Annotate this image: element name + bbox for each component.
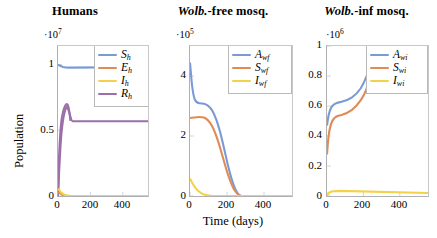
panel-title-rest: -free mosq. <box>208 4 269 18</box>
exponent-prefix: ·10 <box>326 29 340 40</box>
panel-title-italic-part: Wolb. <box>324 4 354 18</box>
legend-humans: Sh Eh Ih Rh <box>94 45 149 107</box>
xtick-humans-200: 200 <box>76 198 104 210</box>
legend-row[interactable]: Swi <box>370 61 423 74</box>
xtick-wi-200: 200 <box>348 198 376 210</box>
panel-title-wolb-free: Wolb.-free mosq. <box>150 4 296 19</box>
legend-swatch-Swi <box>370 67 389 69</box>
xtick-wf-200: 200 <box>212 198 240 210</box>
exponent-power: 5 <box>190 27 194 36</box>
y-exponent-wolb-free: ·105 <box>176 29 194 40</box>
xtick-humans-400: 400 <box>108 198 136 210</box>
panel-title-rest: Humans <box>52 4 98 18</box>
legend-label-Iwi: Iwi <box>393 75 404 87</box>
legend-label-Ih: Ih <box>121 75 129 87</box>
plot-area-wolb-inf: Awi Swi Iwi <box>326 45 429 197</box>
series-line-Iwi <box>327 191 428 196</box>
ytick-wi-1: 1 <box>294 38 322 50</box>
ytick-wf-4: 4 <box>158 68 186 80</box>
legend-row[interactable]: Ih <box>98 74 145 87</box>
legend-swatch-Swf <box>232 67 251 69</box>
legend-wolb-free: Awf Swf Iwf <box>228 45 292 94</box>
exponent-prefix: ·10 <box>176 29 190 40</box>
ytick-wi-08: 0.8 <box>294 68 322 80</box>
plot-area-humans: Sh Eh Ih Rh <box>57 45 149 197</box>
legend-swatch-Awi <box>370 54 389 56</box>
tick-marks <box>190 76 264 196</box>
legend-label-Awf: Awf <box>255 49 270 61</box>
ytick-wi-02: 0.2 <box>294 159 322 171</box>
legend-row[interactable]: Awi <box>370 48 423 61</box>
ytick-humans-05: 0.5 <box>26 123 54 135</box>
legend-label-Rh: Rh <box>121 88 132 100</box>
panel-humans: Humans ·107 <box>0 0 150 238</box>
legend-row[interactable]: Eh <box>98 61 145 74</box>
y-exponent-wolb-inf: ·106 <box>326 29 344 40</box>
legend-swatch-Ih <box>98 80 117 82</box>
xtick-wi-400: 400 <box>385 198 413 210</box>
legend-swatch-Awf <box>232 54 251 56</box>
legend-label-Swi: Swi <box>393 62 406 74</box>
legend-row[interactable]: Swf <box>232 61 287 74</box>
legend-label-Sh: Sh <box>121 49 131 61</box>
figure-container: Population Time (days) Humans ·107 <box>0 0 437 238</box>
legend-swatch-Iwf <box>232 80 251 82</box>
plot-area-wolb-free: Awf Swf Iwf <box>189 45 293 197</box>
legend-label-Eh: Eh <box>121 62 132 74</box>
panel-title-humans: Humans <box>0 4 150 19</box>
legend-row[interactable]: Iwf <box>232 74 287 87</box>
panel-title-wolb-inf: Wolb.-inf mosq. <box>296 4 437 19</box>
legend-label-Swf: Swf <box>255 62 268 74</box>
legend-row[interactable]: Awf <box>232 48 287 61</box>
legend-row[interactable]: Sh <box>98 48 145 61</box>
legend-row[interactable]: Rh <box>98 87 145 100</box>
panel-title-italic-part: Wolb. <box>178 4 208 18</box>
legend-swatch-Eh <box>98 67 117 69</box>
legend-row[interactable]: Iwi <box>370 74 423 87</box>
xtick-wf-400: 400 <box>249 198 277 210</box>
exponent-power: 6 <box>340 27 344 36</box>
legend-swatch-Sh <box>98 54 117 56</box>
series-line-Rh-plateau <box>58 107 148 196</box>
exponent-prefix: ·10 <box>44 29 58 40</box>
xtick-wi-0: 0 <box>313 198 339 210</box>
y-exponent-humans: ·107 <box>44 29 62 40</box>
panel-wolb-free: Wolb.-free mosq. ·105 <box>150 0 296 238</box>
exponent-power: 7 <box>58 27 62 36</box>
ytick-wf-2: 2 <box>158 128 186 140</box>
legend-label-Iwf: Iwf <box>255 75 266 87</box>
legend-wolb-inf: Awi Swi Iwi <box>366 45 428 94</box>
series-line-Iwf <box>190 179 292 196</box>
series-line-Swf <box>190 117 292 196</box>
panel-wolb-inf: Wolb.-inf mosq. ·106 <box>296 0 437 238</box>
xtick-wf-0: 0 <box>176 198 202 210</box>
ytick-wi-04: 0.4 <box>294 128 322 140</box>
legend-label-Awi: Awi <box>393 49 408 61</box>
xtick-humans-0: 0 <box>44 198 70 210</box>
ytick-wi-06: 0.6 <box>294 98 322 110</box>
ytick-humans-1: 1 <box>26 57 54 69</box>
panel-title-rest: -inf mosq. <box>354 4 408 18</box>
legend-swatch-Iwi <box>370 80 389 82</box>
legend-swatch-Rh <box>98 93 117 95</box>
